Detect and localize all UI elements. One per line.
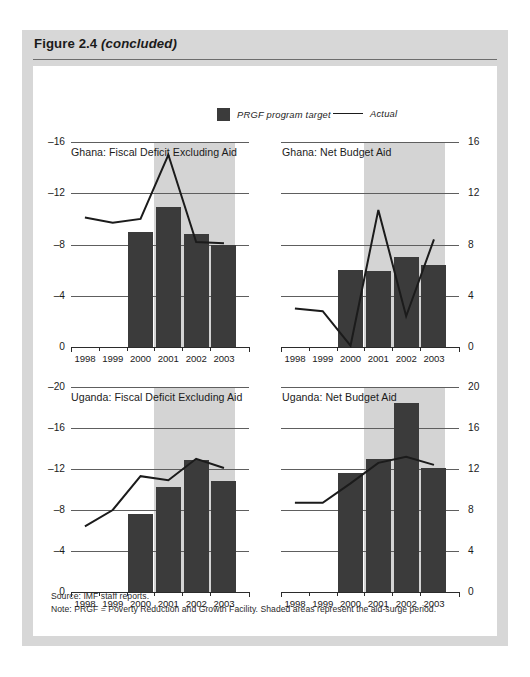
x-axis-tick-label: 2003: [417, 598, 451, 609]
axis-end-cap: [459, 592, 460, 597]
y-axis-tick-label: 0: [468, 587, 496, 597]
chart-title: Uganda: Fiscal Deficit Excluding Aid: [71, 391, 242, 403]
chart-title: Ghana: Net Budget Aid: [282, 146, 391, 158]
y-axis-tick-label: –8: [37, 505, 65, 515]
actual-line-layer: [281, 142, 459, 347]
x-axis-tick: [309, 592, 310, 596]
x-axis-tick-label: 2003: [417, 353, 451, 364]
x-axis-tick: [182, 347, 183, 351]
legend-item-actual: Actual: [333, 108, 397, 119]
header-divider: [33, 59, 497, 60]
chart-title: Uganda: Net Budget Aid: [282, 391, 397, 403]
y-axis-labels: 048121620: [462, 387, 492, 592]
x-axis: 199819992000200120022003: [71, 592, 249, 614]
x-axis-tick: [420, 347, 421, 351]
x-axis: 199819992000200120022003: [71, 347, 249, 369]
x-axis-tick: [309, 347, 310, 351]
chart-ghana-fiscal-deficit: Ghana: Fiscal Deficit Excluding Aid0–4–8…: [39, 132, 254, 368]
figure-header: Figure 2.4 (concluded): [22, 30, 508, 67]
chart-legend: PRGF program target Actual: [33, 108, 497, 128]
y-axis-tick-label: 12: [468, 188, 496, 198]
y-axis-labels: 0–4–8–12–16–20: [39, 387, 69, 592]
actual-line-layer: [281, 387, 459, 592]
axis-end-cap: [459, 347, 460, 352]
legend-label-prgf-target: PRGF program target: [237, 109, 331, 120]
actual-line: [295, 457, 434, 503]
y-axis-labels: 0–4–8–12–16: [39, 142, 69, 347]
legend-swatch-icon: [217, 108, 230, 121]
y-axis-tick-label: 8: [468, 505, 496, 515]
x-axis-tick: [392, 347, 393, 351]
y-axis-tick-label: 16: [468, 137, 496, 147]
x-axis-tick: [364, 347, 365, 351]
x-axis-tick: [154, 347, 155, 351]
x-axis-tick: [182, 592, 183, 596]
chart-uganda-net-budget-aid: Uganda: Net Budget Aid048121620199819992…: [276, 377, 491, 613]
x-axis-tick: [364, 592, 365, 596]
plot-area: [71, 387, 249, 592]
y-axis-tick-label: –8: [37, 240, 65, 250]
y-axis-tick-label: –16: [37, 423, 65, 433]
chart-uganda-fiscal-deficit: Uganda: Fiscal Deficit Excluding Aid0–4–…: [39, 377, 254, 613]
x-axis-tick: [154, 592, 155, 596]
y-axis-tick-label: –16: [37, 137, 65, 147]
x-axis-tick: [127, 347, 128, 351]
legend-line-icon: [333, 113, 363, 114]
y-axis-tick-label: 20: [468, 382, 496, 392]
x-axis: 199819992000200120022003: [281, 592, 459, 614]
actual-line: [85, 155, 224, 243]
x-axis-tick: [337, 592, 338, 596]
x-axis-tick-label: 2003: [207, 598, 241, 609]
x-axis-tick: [99, 347, 100, 351]
y-axis-tick-label: 12: [468, 464, 496, 474]
axis-end-cap: [249, 592, 250, 597]
figure-title-suffix: (concluded): [97, 36, 177, 51]
y-axis-labels: 0481216: [462, 142, 492, 347]
x-axis-tick: [337, 347, 338, 351]
x-axis-tick: [210, 347, 211, 351]
x-axis-tick: [281, 592, 282, 596]
x-axis-tick: [71, 347, 72, 351]
x-axis-tick-label: 2003: [207, 353, 241, 364]
legend-label-actual: Actual: [370, 108, 397, 119]
actual-line-layer: [71, 142, 249, 347]
figure-frame: Figure 2.4 (concluded) PRGF program targ…: [22, 30, 508, 646]
chart-ghana-net-budget-aid: Ghana: Net Budget Aid0481216199819992000…: [276, 132, 491, 368]
y-axis-tick-label: 4: [468, 291, 496, 301]
axis-end-cap: [249, 347, 250, 352]
plot-area: [281, 142, 459, 347]
y-axis-tick-label: 0: [37, 342, 65, 352]
y-axis-tick-label: 16: [468, 423, 496, 433]
x-axis-tick: [210, 592, 211, 596]
x-axis-tick: [99, 592, 100, 596]
plot-area: [281, 387, 459, 592]
page-title: Figure 2.4 (concluded): [34, 36, 177, 51]
y-axis-tick-label: 8: [468, 240, 496, 250]
legend-item-prgf-target: PRGF program target: [217, 108, 331, 121]
figure-title-main: Figure 2.4: [34, 36, 97, 51]
x-axis-tick: [281, 347, 282, 351]
x-axis-tick: [127, 592, 128, 596]
y-axis-tick-label: –12: [37, 464, 65, 474]
actual-line: [295, 210, 434, 346]
x-axis-tick: [420, 592, 421, 596]
y-axis-tick-label: –20: [37, 382, 65, 392]
actual-line: [85, 459, 224, 527]
y-axis-tick-label: 0: [37, 587, 65, 597]
y-axis-tick-label: –4: [37, 291, 65, 301]
x-axis-tick: [71, 592, 72, 596]
figure-panel: PRGF program target Actual Ghana: Fiscal…: [33, 66, 497, 636]
y-axis-tick-label: 0: [468, 342, 496, 352]
y-axis-tick-label: –12: [37, 188, 65, 198]
chart-title: Ghana: Fiscal Deficit Excluding Aid: [71, 146, 237, 158]
actual-line-layer: [71, 387, 249, 592]
x-axis: 199819992000200120022003: [281, 347, 459, 369]
y-axis-tick-label: 4: [468, 546, 496, 556]
x-axis-tick: [392, 592, 393, 596]
plot-area: [71, 142, 249, 347]
y-axis-tick-label: –4: [37, 546, 65, 556]
